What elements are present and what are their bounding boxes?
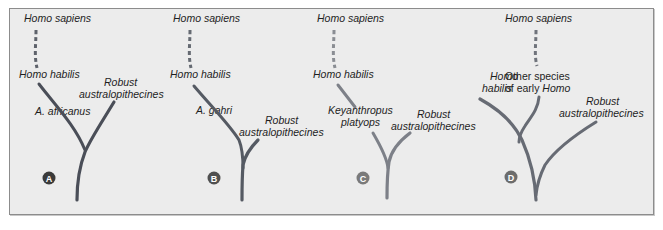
- dashed-lineage-sapiens: [35, 30, 37, 68]
- label-robust-1: Robust: [265, 114, 299, 126]
- dashed-lineage-sapiens: [333, 30, 335, 68]
- label-other-species-2-roman: of early: [505, 82, 542, 94]
- dashed-lineage-sapiens: [189, 30, 191, 68]
- badge-a-label: A: [46, 174, 53, 184]
- branch-homo: [194, 86, 243, 168]
- label-robust-2: australopithecines: [391, 120, 476, 132]
- label-homo-habilis: Homo habilis: [313, 68, 374, 80]
- label-homo-habilis: Homo habilis: [19, 68, 80, 80]
- phylogeny-diagram: Homo sapiens Homo habilis Robust austral…: [0, 0, 663, 230]
- label-homo-sapiens: Homo sapiens: [505, 12, 573, 24]
- label-ancestor-1: Keyanthropus: [328, 104, 394, 116]
- label-robust-2: australopithecines: [239, 126, 324, 138]
- panel-d: Homo sapiens Homo habilis Other species …: [480, 12, 644, 200]
- dashed-lineage-sapiens: [535, 30, 537, 66]
- label-other-species-2-italic: Homo: [542, 82, 570, 94]
- label-robust-1: Robust: [417, 108, 451, 120]
- branch-robust: [536, 122, 596, 195]
- panel-b: Homo sapiens Homo habilis A. gahri Robus…: [170, 12, 324, 200]
- branch-robust-trunk: [242, 140, 258, 200]
- label-robust-1: Robust: [586, 95, 620, 107]
- branch-robust-trunk: [387, 133, 410, 198]
- label-robust-2: australopithecines: [559, 107, 644, 119]
- label-homo-sapiens: Homo sapiens: [24, 12, 92, 24]
- branch-homo-habilis-trunk: [480, 99, 536, 200]
- panel-a: Homo sapiens Homo habilis Robust austral…: [19, 12, 164, 200]
- branch-other-early-homo: [519, 97, 539, 142]
- label-robust-1: Robust: [104, 76, 138, 88]
- badge-d-label: D: [508, 173, 515, 183]
- label-other-species-1: Other species: [505, 70, 570, 82]
- badge-b-label: B: [211, 174, 218, 184]
- label-homo-sapiens: Homo sapiens: [173, 12, 241, 24]
- label-ancestor-2: platyops: [340, 116, 381, 128]
- label-homo-habilis: Homo habilis: [170, 68, 231, 80]
- label-homo-sapiens: Homo sapiens: [317, 12, 385, 24]
- label-other-species-2: of early Homo: [505, 82, 571, 94]
- branch-keyanthropus: [373, 133, 388, 168]
- panel-c: Homo sapiens Homo habilis Keyanthropus p…: [313, 12, 476, 198]
- badge-c-label: C: [360, 174, 367, 184]
- label-robust-2: australopithecines: [79, 88, 164, 100]
